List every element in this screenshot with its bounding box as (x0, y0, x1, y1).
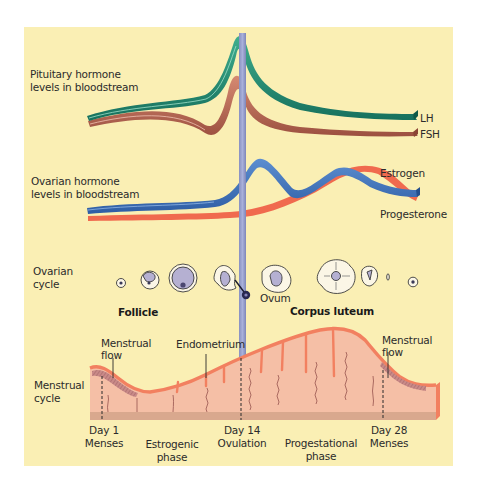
ovulation-label: Ovulation (212, 437, 272, 449)
day1-label: Day 1 (80, 424, 128, 436)
estrogenic-phase-line1: Estrogenic (140, 438, 204, 450)
menstrual-cycle-diagram: Pituitary hormone levels in bloodstream … (0, 0, 479, 483)
lh-legend-label: LH (420, 112, 433, 124)
menstrual-flow-left-line1: Menstrual (101, 337, 151, 349)
menstrual-flow-right-line1: Menstrual (382, 334, 432, 346)
menses-start-label: Menses (80, 437, 128, 449)
corpus-luteum-label: Corpus luteum (290, 305, 374, 317)
endometrium-label: Endometrium (176, 338, 245, 350)
menstrual-flow-right-line2: flow (382, 346, 403, 358)
menstrual-cycle-label-line1: Menstrual (34, 379, 84, 391)
ovarian-cycle-label-line2: cycle (33, 278, 59, 290)
day28-label: Day 28 (364, 424, 414, 436)
menstrual-cycle-label-line2: cycle (34, 392, 60, 404)
ovarian-hormone-label-line2: levels in bloodstream (31, 188, 139, 200)
fsh-legend-label: FSH (420, 128, 440, 140)
ovarian-cycle-label-line1: Ovarian (33, 265, 73, 277)
ovum-label: Ovum (260, 292, 291, 304)
progesterone-legend-label: Progesterone (380, 208, 447, 220)
day14-label: Day 14 (212, 424, 272, 436)
progestational-phase-line2: phase (276, 450, 366, 462)
pituitary-label-line1: Pituitary hormone (30, 68, 121, 80)
pituitary-label-line2: levels in bloodstream (30, 81, 138, 93)
estrogenic-phase-line2: phase (140, 451, 204, 463)
estrogen-legend-label: Estrogen (380, 167, 425, 179)
progestational-phase-line1: Progestational (276, 437, 366, 449)
ovulation-day14-bar (239, 33, 246, 376)
ovarian-hormone-label-line1: Ovarian hormone (31, 175, 120, 187)
basal-layer (90, 412, 436, 420)
follicle-label: Follicle (118, 306, 158, 318)
menses-end-label: Menses (364, 437, 414, 449)
menstrual-flow-left-line2: flow (101, 349, 122, 361)
